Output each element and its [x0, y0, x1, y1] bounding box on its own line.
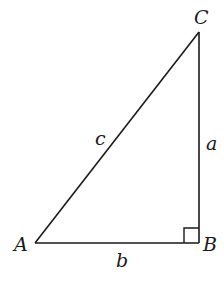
vertex-label-c: C: [194, 6, 209, 28]
side-label-a: a: [206, 132, 217, 154]
triangle-figure: C B A c a b: [0, 0, 224, 281]
side-label-c: c: [95, 127, 106, 149]
right-angle-marker: [184, 228, 199, 243]
right-triangle-diagram: C B A c a b: [0, 0, 224, 281]
side-label-b: b: [116, 249, 128, 271]
vertex-label-b: B: [202, 233, 217, 255]
vertex-label-a: A: [12, 233, 28, 255]
side-c-hypotenuse: [35, 32, 199, 243]
